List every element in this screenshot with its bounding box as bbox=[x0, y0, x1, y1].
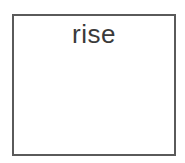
card-word-label: rise bbox=[14, 18, 174, 50]
word-card[interactable]: rise bbox=[12, 14, 176, 156]
